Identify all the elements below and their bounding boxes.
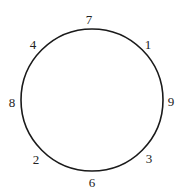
label-4: 4 bbox=[30, 37, 37, 52]
label-2: 2 bbox=[33, 152, 40, 167]
label-3: 3 bbox=[146, 151, 153, 166]
circle bbox=[21, 29, 163, 171]
label-1: 1 bbox=[145, 37, 152, 52]
circle-diagram: 7 1 9 3 6 2 8 4 bbox=[0, 0, 187, 195]
label-6: 6 bbox=[89, 175, 96, 190]
label-8: 8 bbox=[9, 95, 16, 110]
label-9: 9 bbox=[168, 94, 175, 109]
label-7: 7 bbox=[86, 12, 93, 27]
